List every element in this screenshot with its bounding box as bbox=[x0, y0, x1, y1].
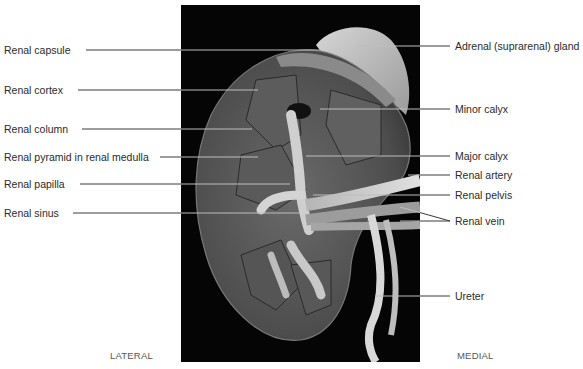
orientation-lateral-label: LATERAL bbox=[110, 350, 153, 361]
label-renal-artery: Renal artery bbox=[455, 169, 512, 181]
label-renal-capsule: Renal capsule bbox=[4, 44, 71, 56]
label-renal-papilla: Renal papilla bbox=[4, 178, 65, 190]
label-renal-sinus: Renal sinus bbox=[4, 207, 59, 219]
orientation-medial-label: MEDIAL bbox=[457, 350, 494, 361]
label-renal-pyramid-in-renal-medulla: Renal pyramid in renal medulla bbox=[4, 151, 149, 163]
kidney-section-photo bbox=[181, 5, 420, 362]
label-adrenal-suprarenal-gland: Adrenal (suprarenal) gland bbox=[455, 40, 579, 52]
label-ureter: Ureter bbox=[455, 290, 484, 302]
label-major-calyx: Major calyx bbox=[455, 150, 508, 162]
label-renal-pelvis: Renal pelvis bbox=[455, 189, 512, 201]
label-minor-calyx: Minor calyx bbox=[455, 103, 508, 115]
label-renal-column: Renal column bbox=[4, 123, 68, 135]
kidney-section-figure: Renal capsuleRenal cortexRenal columnRen… bbox=[0, 0, 583, 369]
label-renal-cortex: Renal cortex bbox=[4, 84, 63, 96]
label-renal-vein: Renal vein bbox=[455, 215, 505, 227]
kidney-illustration bbox=[181, 5, 420, 362]
